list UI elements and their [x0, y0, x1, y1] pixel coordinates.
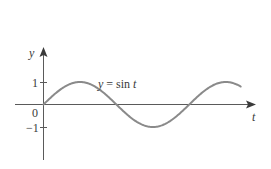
- origin-label: 0: [32, 106, 38, 120]
- equation-t: t: [133, 77, 137, 91]
- equation-rest: = sin: [103, 77, 133, 91]
- sine-chart: y t 1 0 −1 y = sin t: [0, 0, 271, 169]
- x-axis-label: t: [252, 110, 256, 124]
- y-axis-label: y: [28, 46, 35, 60]
- equation-label: y = sin t: [97, 77, 137, 91]
- y-tick-label-1: 1: [32, 76, 38, 90]
- y-tick-label-minus-1: −1: [26, 121, 39, 135]
